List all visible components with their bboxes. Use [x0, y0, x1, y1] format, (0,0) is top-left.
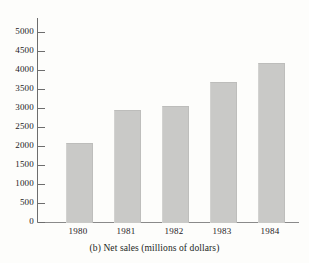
y-tick-label-1000: 1000 [0, 179, 34, 188]
y-tick-label-5000: 5000 [0, 27, 34, 36]
y-tick-label-3500: 3500 [0, 84, 34, 93]
bar-1981 [114, 110, 141, 223]
bar-1980 [66, 143, 93, 223]
y-tick-label-2500: 2500 [0, 122, 34, 131]
bar-1983 [210, 82, 237, 223]
x-axis-label-1984: 1984 [240, 227, 300, 236]
y-tick-3500 [38, 89, 45, 90]
y-tick-0 [38, 222, 45, 223]
y-tick-4000 [38, 70, 45, 71]
bar-1982 [162, 106, 189, 223]
y-tick-label-2000: 2000 [0, 141, 34, 150]
figure-net-sales-bar-chart: 0500100015002000250030003500400045005000… [0, 0, 309, 263]
y-axis-line [37, 18, 38, 223]
figure-caption: (b) Net sales (millions of dollars) [0, 243, 309, 253]
y-tick-label-1500: 1500 [0, 160, 34, 169]
y-tick-label-4500: 4500 [0, 46, 34, 55]
y-tick-2500 [38, 127, 45, 128]
y-tick-label-0: 0 [0, 217, 34, 226]
bar-1984 [258, 63, 285, 223]
y-tick-500 [38, 203, 45, 204]
y-tick-4500 [38, 51, 45, 52]
y-tick-label-3000: 3000 [0, 103, 34, 112]
plot-area: 0500100015002000250030003500400045005000… [0, 0, 309, 240]
y-tick-label-500: 500 [0, 198, 34, 207]
y-tick-1000 [38, 184, 45, 185]
y-tick-1500 [38, 165, 45, 166]
y-tick-3000 [38, 108, 45, 109]
y-tick-5000 [38, 32, 45, 33]
y-tick-2000 [38, 146, 45, 147]
y-tick-label-4000: 4000 [0, 65, 34, 74]
